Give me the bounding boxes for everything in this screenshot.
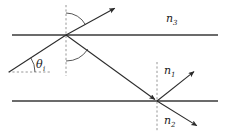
transmitted-ray xyxy=(66,35,155,99)
label-n3-subscript: 3 xyxy=(173,19,178,27)
incidence-angle-arc xyxy=(66,49,88,61)
exit-ray-upper xyxy=(157,72,194,101)
label-n2-subscript: 2 xyxy=(170,121,176,129)
label-theta-symbol: θ xyxy=(36,58,43,71)
exit-ray-lower xyxy=(157,101,197,126)
normal-lines xyxy=(8,5,157,131)
label-n1-subscript: 1 xyxy=(171,71,175,79)
optics-ray-diagram: n 3 n 1 n 2 θ i xyxy=(0,0,230,136)
diagram-canvas: n 3 n 1 n 2 θ i xyxy=(0,0,230,136)
theta-angle-arc xyxy=(31,58,35,72)
label-theta-subscript: i xyxy=(43,65,45,73)
reflected-ray xyxy=(66,8,115,35)
reflection-angle-arc xyxy=(66,13,85,25)
